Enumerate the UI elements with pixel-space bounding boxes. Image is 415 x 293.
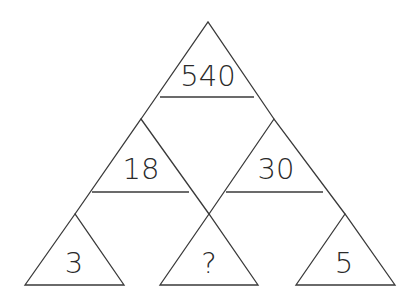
top-triangle: 540 xyxy=(141,22,274,119)
bottom-middle-triangle-value: ? xyxy=(201,246,216,280)
bottom-left-triangle-value: 3 xyxy=(65,246,83,280)
bottom-middle-triangle: ? xyxy=(160,214,258,285)
bottom-left-triangle: 3 xyxy=(25,214,124,285)
mid-right-triangle: 30 xyxy=(209,119,345,214)
mid-left-triangle: 18 xyxy=(75,119,209,214)
mid-right-triangle-value: 30 xyxy=(258,152,295,186)
top-triangle-value: 540 xyxy=(180,59,235,93)
mid-left-triangle-value: 18 xyxy=(123,152,160,186)
triangle-puzzle-diagram: 540 18 30 3 ? 5 xyxy=(0,0,415,293)
bottom-right-triangle-value: 5 xyxy=(335,246,353,280)
bottom-right-triangle: 5 xyxy=(296,214,395,285)
